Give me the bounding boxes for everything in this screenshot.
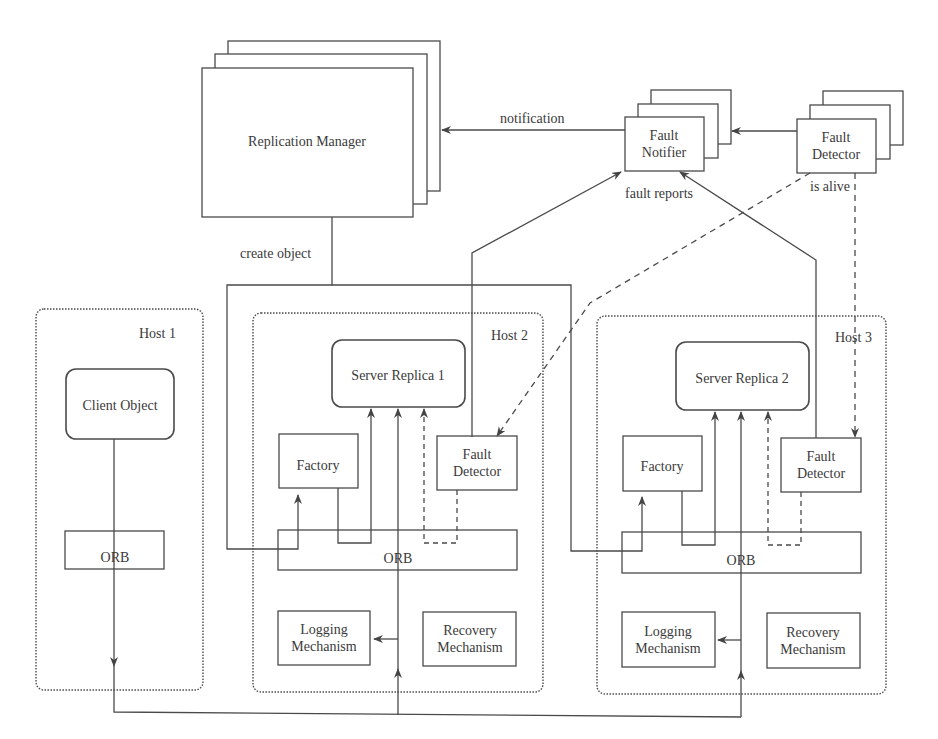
replication-manager-label: Replication Manager bbox=[248, 133, 366, 150]
server-replica-1-label: Server Replica 1 bbox=[351, 367, 444, 384]
fault-reports-edge-label: fault reports bbox=[625, 185, 693, 202]
host3-logging-line2: Mechanism bbox=[635, 640, 700, 657]
global-fd-line1: Fault bbox=[812, 129, 860, 146]
factory-to-replica2-arrow bbox=[682, 412, 715, 545]
host2-logging-label: Logging Mechanism bbox=[291, 621, 356, 655]
global-fd-line2: Detector bbox=[812, 146, 860, 163]
host3-recovery-line2: Mechanism bbox=[780, 641, 845, 658]
notification-edge-label: notification bbox=[500, 110, 565, 127]
factory-to-replica1-arrow bbox=[338, 409, 371, 543]
fault-report-arrow-host2 bbox=[472, 172, 621, 437]
host3-fd-line2: Detector bbox=[797, 465, 845, 482]
replication-manager-stack bbox=[202, 41, 440, 217]
host-1-container bbox=[36, 309, 203, 690]
host2-recovery-line2: Mechanism bbox=[437, 639, 502, 656]
create-object-line-host3 bbox=[332, 285, 642, 551]
global-fault-detector-label: Fault Detector bbox=[812, 129, 860, 163]
host3-logging-line1: Logging bbox=[635, 623, 700, 640]
host3-recovery-label: Recovery Mechanism bbox=[780, 624, 845, 658]
host-2-label: Host 2 bbox=[491, 327, 528, 344]
fault-tolerance-architecture-diagram: Replication Manager Fault Notifier Fault… bbox=[0, 0, 938, 739]
fault-notifier-line2: Notifier bbox=[642, 144, 686, 161]
host2-recovery-line1: Recovery bbox=[437, 622, 502, 639]
host3-factory-label: Factory bbox=[641, 458, 684, 475]
host2-logging-line1: Logging bbox=[291, 621, 356, 638]
host3-orb-label: ORB bbox=[727, 552, 756, 569]
host-3-label: Host 3 bbox=[835, 329, 872, 346]
host2-orb-label: ORB bbox=[384, 550, 413, 567]
host2-fault-detector-label: Fault Detector bbox=[453, 446, 501, 480]
host3-fault-detector-label: Fault Detector bbox=[797, 448, 845, 482]
host3-fd-line1: Fault bbox=[797, 448, 845, 465]
host2-logging-line2: Mechanism bbox=[291, 638, 356, 655]
host2-fd-line2: Detector bbox=[453, 463, 501, 480]
host2-recovery-label: Recovery Mechanism bbox=[437, 622, 502, 656]
host2-factory-label: Factory bbox=[297, 457, 340, 474]
host1-orb-label: ORB bbox=[101, 549, 130, 566]
host-1-label: Host 1 bbox=[139, 325, 176, 342]
host2-fd-line1: Fault bbox=[453, 446, 501, 463]
host3-recovery-line1: Recovery bbox=[780, 624, 845, 641]
create-object-line-host2 bbox=[227, 217, 332, 549]
host3-logging-label: Logging Mechanism bbox=[635, 623, 700, 657]
fault-notifier-line1: Fault bbox=[642, 127, 686, 144]
fault-notifier-label: Fault Notifier bbox=[642, 127, 686, 161]
is-alive-edge-label: is alive bbox=[810, 178, 850, 195]
server-replica-2-label: Server Replica 2 bbox=[695, 370, 788, 387]
client-object-label: Client Object bbox=[82, 397, 157, 414]
create-object-edge-label: create object bbox=[240, 245, 311, 262]
